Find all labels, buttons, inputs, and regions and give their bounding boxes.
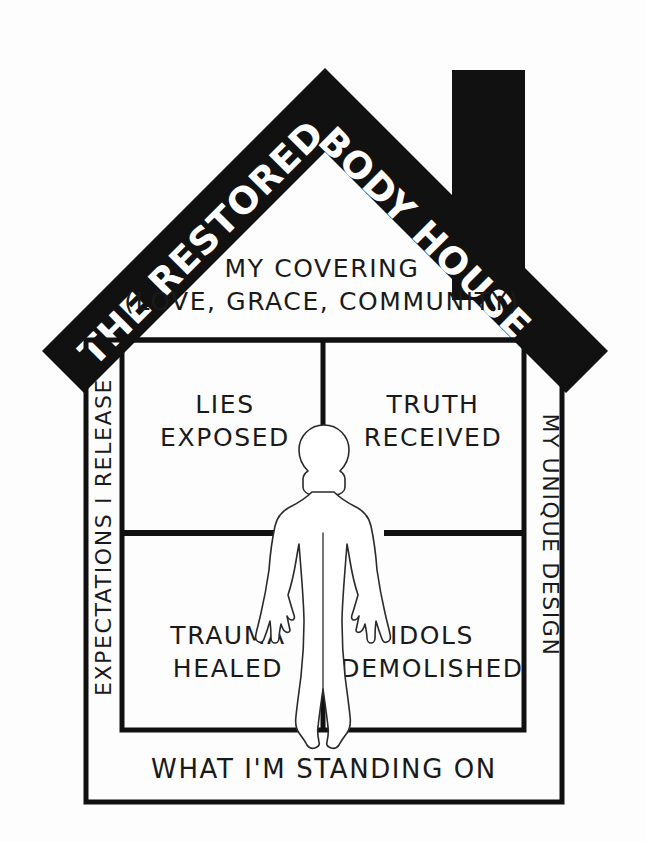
quadrant-bottom-right-line-1: IDOLS (390, 621, 474, 650)
attic-line-1: MY COVERING (225, 254, 420, 283)
house-diagram-canvas: THE RESTORED BODY HOUSE MY COVERING (LOV… (0, 0, 645, 842)
quadrant-bottom-left-line-2: HEALED (173, 654, 283, 683)
quadrant-top-left-line-1: LIES (195, 390, 254, 419)
quadrant-bottom-right-line-2: DEMOLISHED (340, 654, 523, 683)
side-label-right: MY UNIQUE DESIGN (538, 413, 563, 656)
side-label-left: EXPECTATIONS I RELEASE (91, 378, 116, 696)
roof-title-left: THE RESTORED (71, 112, 333, 374)
restored-body-house-diagram: THE RESTORED BODY HOUSE MY COVERING (LOV… (0, 0, 645, 842)
roof-title-left-group: THE RESTORED (71, 112, 333, 374)
quadrant-top-left-line-2: EXPOSED (160, 423, 290, 452)
attic-line-2: (LOVE, GRACE, COMMUNITY) (124, 287, 520, 316)
quadrant-top-right-line-1: TRUTH (385, 390, 479, 419)
foundation-label: WHAT I'M STANDING ON (151, 754, 497, 784)
quadrant-top-right-line-2: RECEIVED (364, 423, 503, 452)
